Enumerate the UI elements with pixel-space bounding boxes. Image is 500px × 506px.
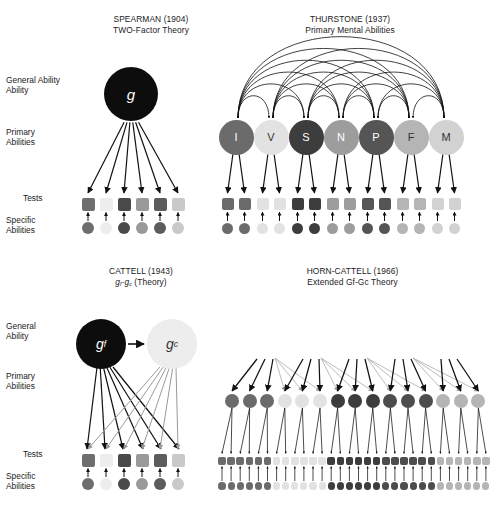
correlation-arc [343, 96, 374, 118]
row-label-tests-bottom: Tests [23, 450, 43, 460]
test-square [100, 454, 113, 467]
connector-arrow [367, 358, 426, 391]
connector-arrow [231, 408, 232, 454]
connector-layer [0, 0, 500, 506]
connector-arrow [319, 359, 320, 391]
connector-arrow [222, 408, 232, 454]
connector-arrow [88, 367, 160, 449]
specific-ability-dot [437, 482, 444, 489]
connector-arrow [313, 408, 320, 454]
connector-arrow [321, 358, 338, 391]
connector-arrow [239, 154, 245, 194]
primary-ability-dot [383, 394, 397, 408]
general-factor-gc[interactable]: gc [147, 319, 197, 369]
primary-ability-dot [295, 394, 309, 408]
test-square [464, 457, 472, 465]
primary-factor-N[interactable]: N [324, 120, 359, 155]
specific-ability-dot [382, 482, 389, 489]
connector-arrow [160, 367, 173, 449]
row-label-line2: Ability [6, 332, 36, 342]
connector-arrow [365, 359, 373, 391]
primary-factor-V[interactable]: V [254, 120, 289, 155]
connector-arrow [88, 122, 124, 193]
connector-arrow [136, 122, 160, 193]
primary-factor-I[interactable]: I [219, 120, 254, 155]
connector-arrow [258, 408, 267, 454]
specific-ability-dot [432, 223, 443, 234]
specific-ability-dot [446, 482, 453, 489]
correlation-arc [308, 96, 339, 118]
connector-arrow [338, 359, 349, 391]
specific-ability-dot [327, 223, 338, 234]
test-square [222, 198, 234, 210]
general-factor-g[interactable]: g [104, 67, 158, 121]
connector-arrow [440, 408, 443, 454]
primary-ability-dot [419, 394, 433, 408]
specific-ability-dot [172, 222, 184, 234]
specific-ability-dot [136, 478, 148, 490]
connector-arrow [285, 408, 286, 454]
connector-arrow [390, 408, 395, 454]
test-square [379, 198, 391, 210]
specific-ability-dot [482, 482, 489, 489]
test-square [437, 457, 445, 465]
test-square [172, 454, 185, 467]
connector-arrow [295, 408, 303, 454]
specific-ability-dot [255, 482, 262, 489]
general-factor-gf[interactable]: gf [76, 319, 126, 369]
specific-ability-dot [172, 478, 184, 490]
connector-arrow [411, 359, 426, 391]
specific-ability-dot [218, 482, 225, 489]
correlation-arc [343, 72, 444, 118]
correlation-arc [238, 37, 444, 118]
connector-arrow [333, 154, 339, 194]
test-square [355, 457, 363, 465]
test-square [346, 457, 354, 465]
primary-ability-dot [260, 394, 274, 408]
title-line-2: gf-gc (Theory) [76, 277, 206, 290]
specific-ability-dot [397, 223, 408, 234]
row-label-primary-abilities-top: Primary Abilities [6, 128, 35, 148]
primary-ability-dot [401, 394, 415, 408]
specific-ability-dot [273, 482, 280, 489]
test-square [236, 457, 244, 465]
test-square [100, 198, 113, 211]
test-square [300, 457, 308, 465]
specific-ability-dot [274, 223, 285, 234]
connector-arrow [338, 408, 341, 454]
test-square [82, 198, 95, 211]
test-square [327, 198, 339, 210]
connector-arrow [275, 358, 302, 391]
correlation-arc [308, 72, 409, 118]
primary-ability-dot [436, 394, 450, 408]
correlation-arc [273, 72, 374, 118]
connector-arrow [133, 122, 142, 193]
connector-arrow [275, 358, 285, 391]
specific-ability-dot [100, 222, 112, 234]
correlation-arc [273, 84, 339, 118]
specific-ability-dot [473, 482, 480, 489]
specific-ability-dot [237, 482, 244, 489]
test-square [482, 457, 490, 465]
specific-ability-dot [291, 482, 298, 489]
test-square [362, 198, 374, 210]
primary-factor-F[interactable]: F [394, 120, 429, 155]
connector-arrow [321, 358, 355, 391]
test-square [292, 198, 304, 210]
specific-ability-dot [344, 223, 355, 234]
row-label-tests-top: Tests [23, 194, 43, 204]
primary-ability-dot [243, 394, 257, 408]
primary-factor-P[interactable]: P [359, 120, 394, 155]
row-label-line2: Abilities [6, 138, 35, 148]
test-square [154, 198, 167, 211]
primary-factor-S[interactable]: S [289, 120, 324, 155]
test-square [239, 198, 251, 210]
connector-arrow [113, 367, 179, 449]
connector-arrow [390, 359, 395, 391]
primary-factor-M[interactable]: M [429, 120, 464, 155]
specific-ability-dot [282, 482, 289, 489]
connector-arrow [459, 408, 461, 454]
correlation-arc [378, 84, 444, 118]
connector-arrow [379, 154, 385, 194]
connector-arrow [413, 358, 461, 391]
